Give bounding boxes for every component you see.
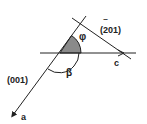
angle-beta-label: β: [66, 67, 72, 78]
angle-phi-label: φ: [79, 31, 86, 42]
phi-shaded-sector: [60, 36, 81, 54]
crystal-angle-diagram: φ β c a (001) (201) ‾: [0, 0, 147, 124]
axis-a-label: a: [21, 112, 27, 122]
beta-arc: [48, 53, 79, 73]
plane-001-label: (001): [7, 75, 28, 85]
axis-c-label: c: [114, 58, 119, 68]
